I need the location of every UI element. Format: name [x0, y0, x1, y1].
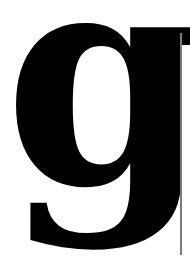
letter-g-glyph: g — [4, 0, 190, 228]
glyph-specimen: g — [0, 0, 190, 280]
vertical-rule-divider — [180, 33, 182, 255]
